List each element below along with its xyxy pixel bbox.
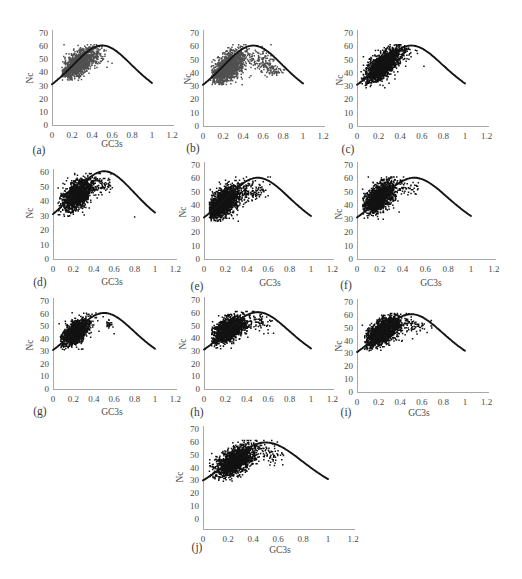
x-tick-label: 0 — [355, 264, 360, 274]
y-tick-label: 50 — [191, 321, 201, 331]
y-tick-label: 20 — [191, 227, 201, 237]
y-tick-label: 0 — [196, 254, 201, 264]
y-tick-label: 0 — [349, 121, 354, 131]
y-tick-label: 50 — [40, 321, 50, 331]
panel-label: (b) — [186, 142, 200, 155]
y-tick-label: 0 — [44, 120, 49, 130]
x-tick-label: 0.8 — [126, 130, 138, 140]
x-tick-label: 1.2 — [170, 264, 181, 274]
y-axis-title: Nc — [175, 471, 185, 482]
panel-a: 01020304050607000.20.40.60.811.2NcGC3s(a… — [25, 28, 178, 157]
y-tick-label: 10 — [191, 241, 201, 251]
x-tick-label: 0.4 — [237, 131, 249, 141]
x-tick-label: 0.8 — [443, 264, 455, 274]
y-tick-label: 60 — [344, 41, 354, 51]
y-tick-label: 20 — [344, 361, 354, 371]
x-tick-label: 0.6 — [263, 264, 275, 274]
x-tick-label: 0.4 — [397, 264, 409, 274]
y-tick-label: 70 — [191, 160, 201, 170]
x-tick-label: 0 — [50, 130, 55, 140]
y-tick-label: 20 — [344, 94, 354, 104]
y-tick-label: 60 — [190, 41, 200, 51]
x-tick-label: 0.6 — [272, 534, 284, 544]
x-tick-label: 0.8 — [277, 131, 289, 141]
y-tick-label: 70 — [39, 28, 49, 38]
x-axis-title: GC3s — [101, 407, 123, 417]
y-tick-label: 70 — [344, 160, 354, 170]
scatter-points — [57, 173, 135, 218]
y-tick-label: 70 — [190, 424, 200, 434]
x-tick-label: 0.8 — [284, 264, 296, 274]
x-tick-label: 1 — [301, 131, 306, 141]
x-tick-label: 0.6 — [109, 264, 121, 274]
figure-canvas: 01020304050607000.20.40.60.811.2NcGC3s(a… — [0, 0, 522, 579]
y-tick-label: 60 — [40, 309, 50, 319]
x-axis-title: GC3s — [269, 545, 291, 555]
x-tick-label: 1 — [469, 264, 474, 274]
x-tick-label: 1.2 — [481, 131, 492, 141]
panel-label: (e) — [191, 280, 204, 293]
x-tick-label: 1.2 — [488, 264, 499, 274]
x-tick-label: 1.2 — [166, 130, 177, 140]
y-tick-label: 10 — [190, 108, 200, 118]
x-tick-label: 1.2 — [481, 397, 492, 407]
x-tick-label: 0 — [201, 131, 206, 141]
y-axis-title: Nc — [178, 206, 188, 217]
panel-label: (d) — [33, 276, 47, 289]
y-tick-label: 50 — [344, 187, 354, 197]
x-tick-label: 0.4 — [86, 130, 98, 140]
y-tick-label: 30 — [344, 348, 354, 358]
x-tick-label: 0 — [202, 394, 207, 404]
y-tick-label: 0 — [195, 121, 200, 131]
y-tick-label: 60 — [190, 437, 200, 447]
panel-c: 01020304050607000.20.40.60.811.2Nc(c) — [335, 28, 492, 156]
x-axis-title: GC3s — [101, 277, 123, 287]
panel-label: (h) — [190, 406, 204, 419]
x-tick-label: 0.2 — [373, 397, 384, 407]
y-tick-label: 10 — [344, 241, 354, 251]
panel-label: (i) — [341, 406, 352, 419]
x-tick-label: 0.4 — [395, 397, 407, 407]
panel-b: 01020304050607000.20.40.60.811.2Nc(b) — [183, 28, 329, 155]
x-tick-label: 0 — [355, 397, 360, 407]
x-tick-label: 0.4 — [395, 131, 407, 141]
panel-label: (j) — [192, 541, 203, 554]
y-tick-label: 30 — [344, 81, 354, 91]
y-tick-label: 40 — [191, 333, 201, 343]
panel-label: (a) — [33, 144, 46, 157]
x-tick-label: 0.4 — [247, 534, 259, 544]
y-tick-label: 10 — [40, 240, 50, 250]
y-tick-label: 40 — [40, 334, 50, 344]
y-tick-label: 30 — [191, 346, 201, 356]
y-tick-label: 40 — [39, 67, 49, 77]
y-tick-label: 40 — [344, 336, 354, 346]
y-tick-label: 50 — [190, 55, 200, 65]
panel-j: 01020304050607000.20.40.60.811.2NcGC3s(j… — [175, 424, 359, 555]
y-tick-label: 30 — [344, 214, 354, 224]
x-tick-label: 0.2 — [222, 534, 233, 544]
y-tick-label: 50 — [344, 55, 354, 65]
x-tick-label: 0.8 — [129, 264, 141, 274]
y-tick-label: 60 — [191, 173, 201, 183]
y-axis-title: Nc — [25, 339, 35, 350]
x-tick-label: 0.8 — [438, 131, 450, 141]
panel-label: (c) — [342, 143, 355, 156]
y-tick-label: 30 — [190, 475, 200, 485]
x-tick-label: 0.2 — [373, 131, 384, 141]
y-tick-label: 20 — [344, 227, 354, 237]
scatter-points — [362, 176, 419, 220]
x-tick-label: 1 — [463, 131, 468, 141]
x-tick-label: 1 — [309, 264, 314, 274]
x-axis-title: GC3s — [408, 408, 430, 418]
x-tick-label: 0.6 — [416, 397, 428, 407]
y-tick-label: 20 — [190, 94, 200, 104]
x-axis-title: GC3s — [101, 139, 123, 149]
y-tick-label: 70 — [191, 295, 201, 305]
y-tick-label: 70 — [190, 28, 200, 38]
y-tick-label: 0 — [45, 254, 50, 264]
panel-label: (g) — [33, 405, 47, 418]
y-axis-title: Nc — [334, 208, 344, 219]
y-tick-label: 0 — [349, 387, 354, 397]
y-tick-label: 10 — [344, 108, 354, 118]
x-tick-label: 0.4 — [88, 394, 100, 404]
